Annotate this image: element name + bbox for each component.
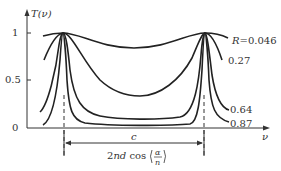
series-label-r-0046: R=0.046	[231, 35, 277, 46]
dimension-arrow-left-icon	[65, 141, 71, 146]
x-axis-label: ν	[262, 131, 268, 142]
tick-label-1: 1	[12, 27, 18, 38]
diagram-canvas: 1 0.5 0 T(ν) ν R=0.046 0.27 0.64 0.87 c …	[0, 0, 281, 171]
x-axis-arrow-icon	[263, 126, 270, 131]
series-label-064: 0.64	[230, 104, 252, 115]
spacing-label-c: c	[131, 131, 137, 142]
tick-label-05: 0.5	[5, 74, 21, 85]
y-axis-arrow-icon	[25, 9, 30, 16]
y-axis-label: T(ν)	[31, 8, 52, 19]
curve-r-064	[40, 33, 229, 119]
paren-left	[151, 150, 153, 163]
series-label-027: 0.27	[228, 55, 250, 66]
formula-n: n	[155, 158, 160, 167]
formula-alpha: α	[155, 148, 161, 157]
series-label-087: 0.87	[230, 118, 252, 129]
tick-label-0: 0	[12, 122, 18, 133]
formula-prefix: 2nd cos	[107, 150, 146, 161]
paren-right	[164, 150, 166, 163]
dimension-arrow-right-icon	[197, 141, 203, 146]
curve-r-027	[44, 33, 222, 96]
transmission-diagram: 1 0.5 0 T(ν) ν R=0.046 0.27 0.64 0.87 c …	[0, 0, 281, 171]
